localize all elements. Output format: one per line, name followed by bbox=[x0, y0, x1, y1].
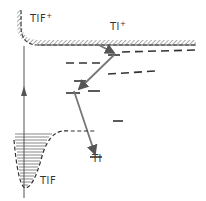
tl-ion-label: Tl+ bbox=[109, 20, 126, 32]
excitation-arrow bbox=[21, 46, 27, 198]
tlf-molecule-label: TlF bbox=[39, 175, 56, 186]
cascade-arrows bbox=[74, 44, 114, 154]
tlf-ion-label: TlF+ bbox=[29, 12, 53, 24]
tl-atom-label: Tl bbox=[91, 153, 102, 164]
energy-level-diagram: TlF+ Tl+ Tl TlF bbox=[0, 0, 206, 201]
rydberg-levels bbox=[66, 50, 195, 121]
